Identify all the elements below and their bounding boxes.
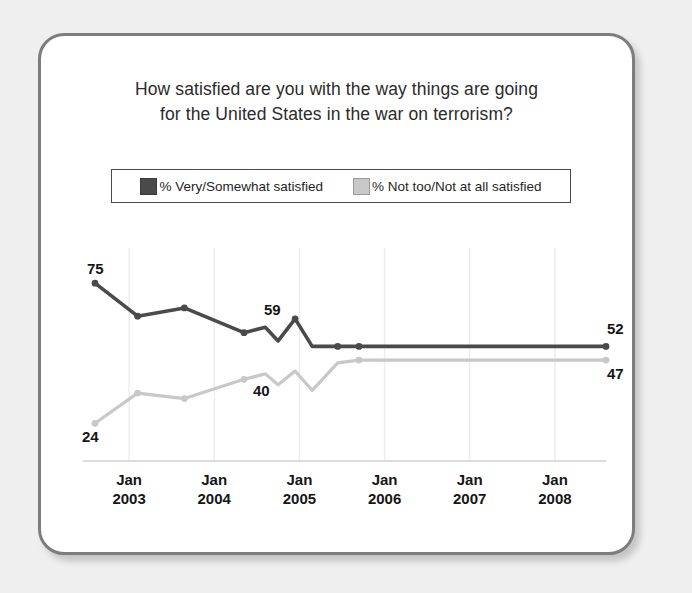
data-point-marker	[334, 343, 341, 350]
x-tick-label-2004: Jan2004	[179, 470, 249, 508]
x-tick-year: 2006	[350, 489, 420, 508]
data-point-marker	[181, 305, 188, 312]
data-label-59: 59	[264, 301, 281, 318]
series-not-too-not-at-all-satisfied	[92, 357, 610, 427]
series-line	[95, 360, 606, 423]
data-point-marker	[92, 420, 99, 427]
data-point-marker	[134, 390, 141, 397]
data-point-marker	[356, 343, 363, 350]
data-point-marker	[603, 343, 610, 350]
x-tick-year: 2003	[94, 489, 164, 508]
data-label-24: 24	[82, 428, 99, 445]
series-line	[95, 283, 606, 346]
data-point-marker	[181, 395, 188, 402]
x-tick-month: Jan	[94, 470, 164, 489]
x-tick-year: 2008	[520, 489, 590, 508]
x-tick-label-2008: Jan2008	[520, 470, 590, 508]
series-very-somewhat-satisfied	[92, 280, 610, 350]
x-tick-month: Jan	[435, 470, 505, 489]
data-point-marker	[92, 280, 99, 287]
data-point-marker	[241, 329, 248, 336]
x-tick-month: Jan	[350, 470, 420, 489]
data-label-75: 75	[87, 260, 104, 277]
x-tick-year: 2004	[179, 489, 249, 508]
x-tick-label-2005: Jan2005	[264, 470, 334, 508]
data-label-40: 40	[253, 382, 270, 399]
x-tick-label-2007: Jan2007	[435, 470, 505, 508]
x-tick-year: 2005	[264, 489, 334, 508]
x-tick-label-2003: Jan2003	[94, 470, 164, 508]
chart-gridlines	[129, 248, 555, 461]
data-point-marker	[241, 376, 248, 383]
x-tick-month: Jan	[264, 470, 334, 489]
x-tick-label-2006: Jan2006	[350, 470, 420, 508]
data-label-52: 52	[607, 320, 624, 337]
chart-card: How satisfied are you with the way thing…	[38, 33, 635, 555]
x-tick-year: 2007	[435, 489, 505, 508]
data-point-marker	[134, 313, 141, 320]
x-tick-month: Jan	[520, 470, 590, 489]
data-label-47: 47	[607, 365, 624, 382]
data-point-marker	[356, 357, 363, 364]
x-tick-month: Jan	[179, 470, 249, 489]
data-point-marker	[603, 357, 610, 364]
data-point-marker	[292, 316, 299, 323]
